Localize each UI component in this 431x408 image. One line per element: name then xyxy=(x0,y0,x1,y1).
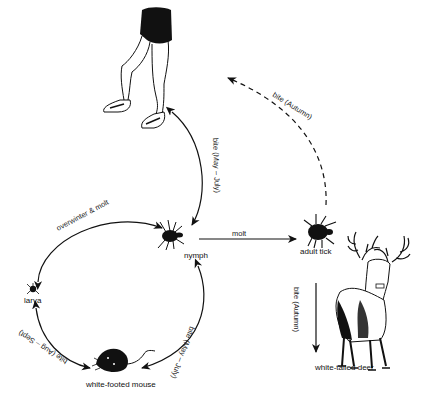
edge-label-adult-to-deer: bite (Autumn) xyxy=(292,287,301,333)
node-label-mouse: white-footed mouse xyxy=(85,380,156,389)
human-legs-icon xyxy=(104,7,172,128)
edge-label-larva-to-nymph: overwinter & molt xyxy=(55,197,111,233)
adult-tick-icon xyxy=(304,214,336,248)
node-label-deer: white-tailed deer xyxy=(314,363,374,372)
node-label-adult-tick: adult tick xyxy=(300,247,333,256)
edge-nymph-to-human xyxy=(172,112,202,225)
nymph-tick-icon xyxy=(158,220,184,250)
larva-tick-icon xyxy=(27,283,39,294)
deer-icon xyxy=(336,232,410,370)
tick-life-cycle-diagram: bite (Autumn) bite (May – July) overwint… xyxy=(0,0,431,408)
edge-label-nymph-to-human: bite (May – July) xyxy=(211,138,222,194)
mouse-icon xyxy=(92,349,155,372)
edge-nymph-to-mouse xyxy=(142,266,204,368)
edge-label-larva-to-mouse: bite (Aug – Sept) xyxy=(16,328,69,366)
edge-label-nymph-to-adult: molt xyxy=(232,229,247,238)
edge-larva-to-nymph xyxy=(38,222,162,282)
node-label-larva: larva xyxy=(24,296,42,305)
edge-label-adult-to-human: bite (Autumn) xyxy=(271,90,314,122)
node-label-nymph: nymph xyxy=(184,251,208,260)
edge-label-nymph-to-mouse: bite (May – July) xyxy=(169,325,196,380)
